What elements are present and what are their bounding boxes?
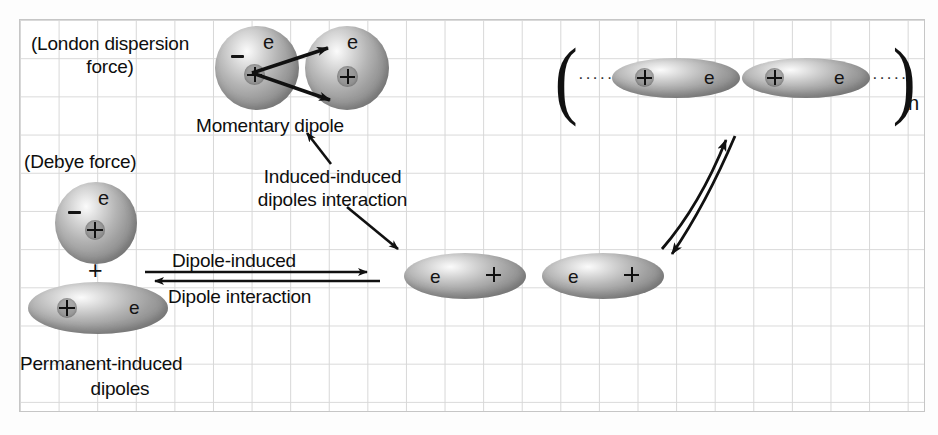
negative-sign xyxy=(68,211,81,214)
plus-joiner: + xyxy=(88,258,103,283)
nucleus-plus-icon xyxy=(484,265,503,284)
electron-symbol: e xyxy=(704,68,715,87)
momentary-dipole-sphere-right: e xyxy=(305,26,389,110)
diagram-canvas: (London dispersion force) Momentary dipo… xyxy=(0,0,938,435)
label-london-dispersion-line2: force) xyxy=(10,55,210,78)
label-induced-induced-line1: Induced-induced xyxy=(235,165,430,188)
label-permanent-induced-line2: dipoles xyxy=(20,377,220,400)
label-debye-force: (Debye force) xyxy=(24,150,137,173)
label-dipole-interaction: Dipole interaction xyxy=(168,285,311,308)
label-permanent-induced-line1: Permanent-induced xyxy=(20,352,182,375)
permanent-dipole-sphere: e xyxy=(55,182,137,264)
bracket-open-icon: ( xyxy=(555,36,578,122)
electron-symbol: e xyxy=(568,267,579,286)
nucleus-plus-icon xyxy=(337,66,358,87)
label-dipole-induced: Dipole-induced xyxy=(172,249,296,272)
electron-symbol: e xyxy=(347,32,358,52)
nucleus-plus-icon xyxy=(635,68,654,87)
nucleus-plus-icon xyxy=(765,68,784,87)
permanent-dipole-ellipse: e xyxy=(28,282,168,334)
electron-symbol: e xyxy=(263,32,274,52)
label-induced-induced-line2: dipoles interaction xyxy=(235,188,430,211)
subscript-n: n xyxy=(908,92,919,115)
nucleus-plus-icon xyxy=(57,298,77,318)
chain-ellipse-left: e xyxy=(612,58,740,98)
label-london-dispersion-line1: (London dispersion xyxy=(10,32,210,55)
induced-ellipse-left: e xyxy=(404,253,526,299)
nucleus-plus-icon xyxy=(85,220,105,240)
nucleus-plus-icon xyxy=(622,265,641,284)
electron-symbol: e xyxy=(129,298,140,317)
chain-ellipse-right: e xyxy=(742,58,870,98)
electron-symbol: e xyxy=(430,267,441,286)
nucleus-plus-icon xyxy=(244,64,265,85)
negative-sign xyxy=(231,55,244,58)
momentary-dipole-sphere-left: e xyxy=(215,26,299,110)
induced-ellipse-right: e xyxy=(542,253,664,299)
label-momentary-dipole: Momentary dipole xyxy=(196,114,344,137)
electron-symbol: e xyxy=(98,188,109,208)
chain-leading-dots: ····· xyxy=(578,68,614,88)
electron-symbol: e xyxy=(834,68,845,87)
